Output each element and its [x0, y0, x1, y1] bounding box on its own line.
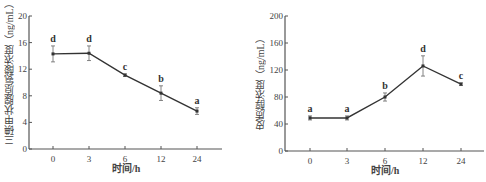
y-tick-label: 0 [279, 146, 284, 156]
plot-area: 0481216200361224ddcba [0, 0, 243, 182]
x-axis-label: 时间/h [112, 160, 140, 175]
x-tick-label: 3 [87, 154, 92, 164]
significance-label: a [195, 95, 200, 106]
significance-label: c [459, 70, 464, 81]
y-tick-label: 160 [270, 38, 284, 48]
data-point: a [195, 95, 200, 115]
significance-label: a [308, 103, 313, 114]
x-axis-label: 时间/h [371, 162, 399, 177]
chart-t3: 三碘甲状腺原氨酸浓度（ng/mL） 0481216200361224ddcba … [0, 0, 243, 182]
significance-label: c [123, 61, 128, 72]
significance-label: b [158, 73, 164, 84]
x-tick-label: 0 [51, 154, 56, 164]
data-line [310, 66, 461, 118]
x-tick-label: 24 [193, 154, 203, 164]
y-tick-label: 8 [23, 91, 28, 101]
y-tick-label: 4 [23, 117, 28, 127]
y-tick-label: 0 [23, 144, 28, 154]
x-tick-label: 0 [308, 156, 313, 166]
y-tick-label: 12 [18, 64, 27, 74]
significance-label: b [382, 80, 388, 91]
significance-label: d [50, 33, 56, 44]
data-point: d [86, 33, 92, 61]
data-point: c [459, 70, 464, 86]
y-tick-label: 200 [270, 11, 284, 21]
y-tick-label: 20 [18, 11, 28, 21]
chart-cortisol: 皮质醇浓度（ng/mL） 040801201602000361224aabdc … [243, 0, 486, 182]
data-point: b [158, 73, 164, 101]
data-point: c [123, 61, 128, 77]
x-tick-label: 3 [345, 156, 350, 166]
axes: 0481216200361224 [18, 11, 222, 164]
significance-label: a [345, 103, 350, 114]
y-tick-label: 80 [274, 92, 284, 102]
axes: 040801201602000361224 [270, 11, 485, 166]
y-tick-label: 120 [270, 65, 284, 75]
x-tick-label: 24 [457, 156, 467, 166]
x-tick-label: 12 [157, 154, 166, 164]
y-tick-label: 16 [18, 38, 28, 48]
y-tick-label: 40 [274, 119, 284, 129]
significance-label: d [420, 43, 426, 54]
plot-area: 040801201602000361224aabdc [243, 0, 486, 182]
data-point: d [50, 33, 56, 62]
x-tick-label: 12 [419, 156, 428, 166]
significance-label: d [86, 33, 92, 44]
data-point: d [420, 43, 426, 76]
